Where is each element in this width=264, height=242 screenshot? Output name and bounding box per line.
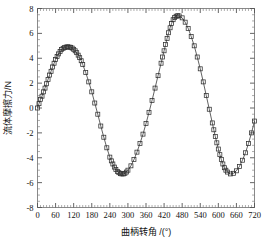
data-point-marker — [186, 26, 190, 30]
y-tick-label: 4 — [29, 53, 34, 63]
x-tick-label: 240 — [103, 210, 116, 220]
data-point-marker — [105, 146, 109, 150]
data-point-marker — [253, 119, 257, 123]
data-point-marker — [153, 86, 157, 90]
data-point-marker — [246, 141, 250, 145]
chart-figure: 060120180240300360420480540600660720-8-6… — [0, 0, 264, 242]
data-point-marker — [189, 34, 193, 38]
x-tick-label: 0 — [35, 210, 39, 220]
data-point-marker — [144, 122, 148, 126]
series-line — [38, 16, 255, 174]
data-point-marker — [201, 80, 205, 84]
data-point-marker — [213, 135, 217, 139]
y-tick-label: 8 — [29, 4, 33, 14]
data-point-marker — [138, 141, 142, 145]
y-tick-label: -2 — [26, 128, 33, 138]
plot-frame — [38, 9, 255, 208]
y-tick-label: -8 — [26, 203, 33, 213]
data-point-marker — [215, 141, 219, 145]
data-point-marker — [212, 128, 216, 132]
data-point-marker — [126, 168, 130, 172]
x-tick-label: 600 — [212, 210, 225, 220]
y-tick-label: 6 — [29, 28, 33, 38]
data-point-marker — [249, 131, 253, 135]
data-point-marker — [135, 150, 139, 154]
data-point-marker — [204, 94, 208, 98]
data-point-marker — [36, 106, 40, 110]
data-point-marker — [40, 94, 44, 98]
data-point-marker — [216, 147, 220, 151]
data-point-marker — [195, 55, 199, 59]
data-point-marker — [49, 69, 53, 73]
x-tick-label: 120 — [67, 210, 80, 220]
data-point-marker — [207, 107, 211, 111]
data-point-marker — [165, 36, 169, 40]
data-point-marker — [129, 164, 133, 168]
data-point-marker — [150, 99, 154, 103]
data-point-marker — [161, 55, 165, 59]
data-point-marker — [210, 121, 214, 125]
data-point-marker — [43, 86, 47, 90]
data-point-marker — [234, 169, 238, 173]
x-tick-label: 180 — [85, 210, 98, 220]
x-tick-label: 420 — [158, 210, 171, 220]
data-point-marker — [168, 26, 172, 30]
x-tick-label: 60 — [51, 210, 60, 220]
data-point-marker — [192, 44, 196, 48]
data-point-marker — [240, 158, 244, 162]
chart-canvas: 060120180240300360420480540600660720-8-6… — [0, 0, 264, 242]
data-point-marker — [180, 16, 184, 20]
data-point-marker — [141, 132, 145, 136]
y-tick-label: -6 — [26, 178, 33, 188]
data-point-marker — [162, 49, 166, 53]
x-tick-label: 720 — [248, 210, 261, 220]
y-tick-label: 0 — [29, 103, 33, 113]
data-point-marker — [96, 112, 100, 116]
data-point-marker — [219, 158, 223, 162]
y-tick-label: 2 — [29, 78, 33, 88]
y-axis-title: 流体摩擦力/N — [2, 81, 13, 135]
data-point-marker — [102, 135, 106, 139]
x-tick-label: 360 — [140, 210, 153, 220]
data-point-marker — [81, 62, 85, 66]
data-point-marker — [156, 74, 160, 78]
data-point-marker — [37, 102, 41, 106]
x-tick-label: 480 — [176, 210, 189, 220]
data-point-marker — [93, 101, 97, 105]
data-point-marker — [183, 20, 187, 24]
data-point-marker — [164, 43, 168, 47]
data-point-marker — [132, 158, 136, 162]
x-axis-title: 曲柄转角 /(°) — [121, 226, 172, 237]
data-point-marker — [243, 151, 247, 155]
data-point-marker — [87, 80, 91, 84]
data-point-marker — [45, 82, 49, 86]
data-point-marker — [90, 90, 94, 94]
data-point-marker — [159, 61, 163, 65]
x-tick-label: 300 — [122, 210, 135, 220]
data-point-marker — [99, 124, 103, 128]
y-tick-label: -4 — [26, 153, 34, 163]
data-point-marker — [198, 67, 202, 71]
data-point-marker — [218, 153, 222, 157]
data-point-marker — [237, 164, 241, 168]
data-point-marker — [147, 110, 151, 114]
x-tick-label: 660 — [230, 210, 243, 220]
data-point-marker — [84, 71, 88, 75]
data-point-marker — [46, 77, 50, 81]
x-tick-label: 540 — [194, 210, 207, 220]
data-point-marker — [167, 31, 171, 35]
